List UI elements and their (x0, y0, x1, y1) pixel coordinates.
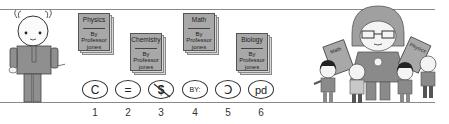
book-math: Math By Professor jones (183, 13, 215, 51)
share-alike-icon: Ↄ (215, 80, 241, 99)
label-number: 4 (182, 107, 208, 118)
book-subject: Biology (237, 37, 267, 44)
book-subject: Chemistry (131, 37, 161, 44)
book-subject: Physics (79, 17, 109, 24)
book-chemistry: Chemistry By Professor jones (130, 33, 162, 71)
label-number: 2 (115, 107, 141, 118)
book-author-name: jones (245, 64, 259, 70)
book-author-by: By (90, 31, 97, 37)
book-author-name: jones (87, 44, 101, 50)
book-physics: Physics By Professor jones (78, 13, 110, 51)
book-author-title: Professor (186, 37, 212, 43)
label-number: 3 (148, 107, 174, 118)
teacher-with-children-figure: Math Physics (300, 4, 440, 104)
label-number: 5 (215, 107, 241, 118)
label-number: 1 (82, 107, 108, 118)
non-commercial-icon: $ (148, 80, 174, 99)
public-domain-icon: pd (248, 80, 274, 99)
book-author-title: Professor (81, 37, 107, 43)
book-author-by: By (248, 51, 255, 57)
book-author-by: By (195, 31, 202, 37)
book-author-title: Professor (133, 57, 159, 63)
pd-glyph: pd (255, 84, 267, 96)
book-biology: Biology By Professor jones (236, 33, 268, 71)
book-author-name: jones (139, 64, 153, 70)
book-subject: Math (184, 17, 214, 24)
no-derivatives-icon: = (115, 80, 141, 99)
reverse-c-glyph: Ↄ (224, 83, 232, 97)
label-number: 6 (248, 107, 274, 118)
copyright-glyph: C (91, 83, 100, 97)
book-author-by: By (142, 51, 149, 57)
book-author-name: jones (192, 44, 206, 50)
professor-figure (5, 8, 65, 104)
by-glyph: BY: (190, 86, 201, 93)
equals-glyph: = (124, 83, 131, 97)
copyright-icon: C (82, 80, 108, 99)
attribution-icon: BY: (182, 80, 208, 99)
book-author-title: Professor (239, 57, 265, 63)
